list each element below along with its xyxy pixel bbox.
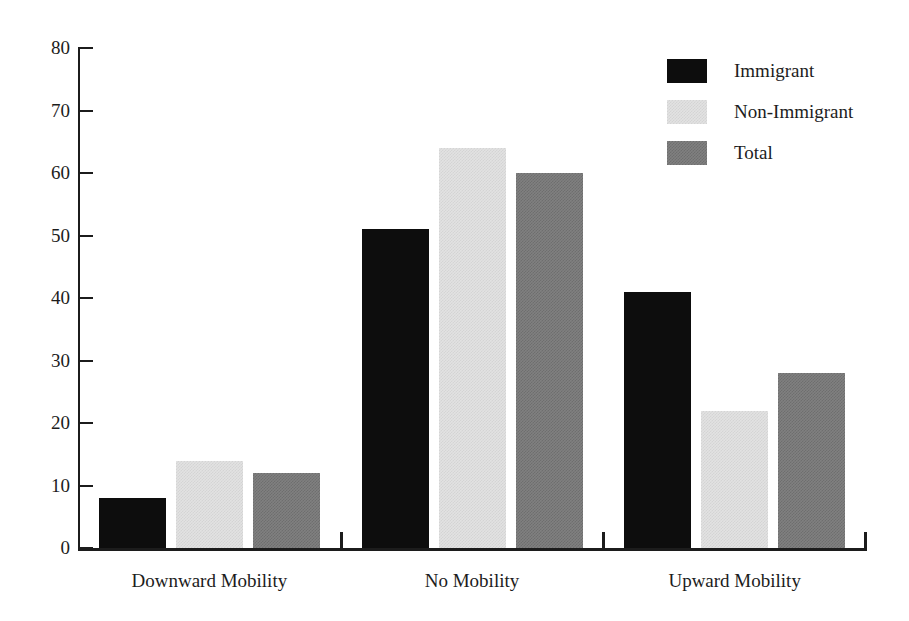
bar xyxy=(362,229,429,548)
x-axis-line xyxy=(78,548,867,551)
bar xyxy=(516,173,583,548)
legend-item: Non-Immigrant xyxy=(667,91,853,132)
legend-item-label: Immigrant xyxy=(734,61,814,80)
y-axis-tick-label-text: 70 xyxy=(30,101,70,120)
legend-item: Total xyxy=(667,132,853,173)
bar xyxy=(439,148,506,548)
x-axis-category-label: Upward Mobility xyxy=(603,570,866,592)
y-axis-tick-label-text: 80 xyxy=(30,38,70,57)
y-axis-tick-label-text: 10 xyxy=(30,476,70,495)
bar-chart: 01020304050607080 Downward MobilityNo Mo… xyxy=(0,0,909,621)
y-axis-tick-label-text: 60 xyxy=(30,163,70,182)
bar xyxy=(701,411,768,549)
y-axis-tick-label-text: 50 xyxy=(30,226,70,245)
y-axis-tick-label: 20 xyxy=(26,413,70,432)
y-axis-tick-label-text: 40 xyxy=(30,288,70,307)
y-axis-tick-label: 80 xyxy=(26,38,70,57)
y-axis-tick-label: 10 xyxy=(26,476,70,495)
legend-swatch-icon xyxy=(667,100,707,124)
y-axis-tick-label-text: 30 xyxy=(30,351,70,370)
chart-legend: ImmigrantNon-ImmigrantTotal xyxy=(667,50,853,173)
bar xyxy=(99,498,166,548)
legend-item-label: Total xyxy=(734,143,773,162)
y-axis-tick-label: 40 xyxy=(26,288,70,307)
y-axis-tick-label: 0 xyxy=(26,538,70,557)
bar xyxy=(253,473,320,548)
x-axis-category-label: Downward Mobility xyxy=(78,570,341,592)
y-axis-tick-label: 30 xyxy=(26,351,70,370)
bar xyxy=(176,461,243,549)
y-axis-tick-label: 70 xyxy=(26,101,70,120)
legend-item-label: Non-Immigrant xyxy=(734,102,853,121)
y-axis-tick-label-text: 20 xyxy=(30,413,70,432)
legend-swatch-icon xyxy=(667,141,707,165)
bar xyxy=(624,292,691,548)
bar xyxy=(778,373,845,548)
y-axis-tick-label: 50 xyxy=(26,226,70,245)
y-axis-tick-label: 60 xyxy=(26,163,70,182)
y-axis-tick-label-text: 0 xyxy=(30,538,70,557)
legend-item: Immigrant xyxy=(667,50,853,91)
legend-swatch-icon xyxy=(667,59,707,83)
x-axis-category-label: No Mobility xyxy=(341,570,604,592)
